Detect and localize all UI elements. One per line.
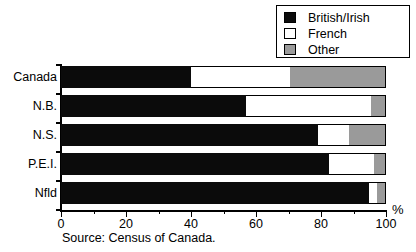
x-tick-80 bbox=[321, 210, 322, 217]
legend-label-british-irish: British/Irish bbox=[308, 12, 370, 24]
x-tick-50 bbox=[224, 210, 225, 214]
legend-item-other: Other bbox=[284, 42, 409, 57]
legend-item-british-irish: British/Irish bbox=[284, 10, 409, 25]
table-row bbox=[61, 153, 386, 175]
legend-label-other: Other bbox=[308, 44, 339, 56]
white-swatch bbox=[284, 28, 296, 39]
bar-segment-french bbox=[329, 153, 374, 175]
category-label-nb: N.B. bbox=[0, 100, 57, 112]
grey-swatch bbox=[284, 44, 296, 55]
category-label-ns: N.S. bbox=[0, 129, 57, 141]
table-row bbox=[61, 95, 386, 117]
chart-legend: British/Irish French Other bbox=[276, 5, 410, 58]
x-tick-40 bbox=[191, 210, 192, 217]
bar-segment-french bbox=[191, 66, 290, 88]
x-tick-label-0: 0 bbox=[58, 218, 65, 231]
table-row bbox=[61, 124, 386, 146]
bar-segment-british-irish bbox=[61, 153, 329, 175]
bar-segment-british-irish bbox=[61, 95, 246, 117]
x-tick-60 bbox=[256, 210, 257, 217]
axis-unit-label: % bbox=[392, 203, 404, 216]
bar-segment-french bbox=[318, 124, 349, 146]
legend-label-french: French bbox=[308, 28, 347, 40]
legend-item-french: French bbox=[284, 26, 409, 41]
source-note: Source: Census of Canada. bbox=[62, 232, 216, 245]
bar-segment-french bbox=[246, 95, 371, 117]
black-swatch bbox=[284, 12, 296, 23]
plot-area: 0 20 40 60 80 100 bbox=[61, 64, 386, 210]
x-tick-label-60: 60 bbox=[249, 218, 263, 231]
x-tick-30 bbox=[159, 210, 160, 214]
bar-segment-french bbox=[369, 182, 376, 204]
x-tick-70 bbox=[289, 210, 290, 214]
x-tick-label-40: 40 bbox=[184, 218, 198, 231]
bar-segment-other bbox=[371, 95, 386, 117]
bar-segment-british-irish bbox=[61, 182, 369, 204]
table-row bbox=[61, 66, 386, 88]
x-tick-0 bbox=[61, 210, 62, 217]
x-tick-20 bbox=[126, 210, 127, 217]
bar-segment-other bbox=[374, 153, 386, 175]
stacked-bar-chart: British/Irish French Other Canada N.B. N… bbox=[0, 0, 416, 252]
category-label-nfld: Nfld bbox=[0, 187, 57, 199]
bar-segment-other bbox=[349, 124, 386, 146]
bar-segment-british-irish bbox=[61, 66, 191, 88]
table-row bbox=[61, 182, 386, 204]
x-tick-10 bbox=[94, 210, 95, 214]
bar-segment-other bbox=[377, 182, 386, 204]
x-tick-90 bbox=[354, 210, 355, 214]
bar-segment-british-irish bbox=[61, 124, 318, 146]
x-tick-label-100: 100 bbox=[376, 218, 397, 231]
x-tick-100 bbox=[386, 210, 387, 217]
x-tick-label-20: 20 bbox=[119, 218, 133, 231]
x-tick-label-80: 80 bbox=[314, 218, 328, 231]
category-axis-labels: Canada N.B. N.S. P.E.I. Nfld bbox=[0, 64, 57, 210]
category-label-pei: P.E.I. bbox=[0, 158, 57, 170]
bar-segment-other bbox=[290, 66, 386, 88]
category-label-canada: Canada bbox=[0, 71, 57, 83]
